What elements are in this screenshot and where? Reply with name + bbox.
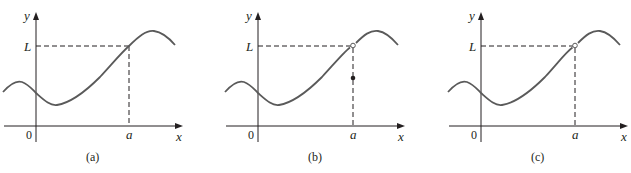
graph-b bbox=[222, 0, 432, 173]
L-label: L bbox=[469, 40, 476, 53]
origin-label: 0 bbox=[26, 129, 32, 141]
y-axis-label: y bbox=[469, 9, 475, 22]
origin-label: 0 bbox=[471, 129, 477, 141]
open-circle-hole-icon bbox=[573, 43, 578, 48]
limit-figure: y L 0 a x (a) y L 0 a x (b) bbox=[0, 0, 631, 173]
a-label: a bbox=[350, 128, 357, 141]
origin-label: 0 bbox=[248, 129, 254, 141]
a-label: a bbox=[126, 128, 133, 141]
a-label: a bbox=[572, 128, 579, 141]
y-axis-arrow-icon bbox=[478, 12, 484, 20]
panel-caption: (a) bbox=[86, 151, 99, 163]
panel-b: y L 0 a x (b) bbox=[222, 0, 432, 173]
x-axis-label: x bbox=[621, 130, 627, 143]
panel-caption: (c) bbox=[531, 151, 544, 163]
y-axis-arrow-icon bbox=[33, 12, 39, 20]
y-axis-arrow-icon bbox=[255, 12, 261, 20]
panel-a: y L 0 a x (a) bbox=[0, 0, 210, 173]
x-axis-label: x bbox=[176, 130, 182, 143]
open-circle-hole-icon bbox=[351, 43, 356, 48]
graph-c bbox=[445, 0, 631, 173]
L-label: L bbox=[246, 40, 253, 53]
x-axis-label: x bbox=[398, 130, 404, 143]
L-label: L bbox=[24, 40, 31, 53]
y-axis-label: y bbox=[24, 9, 30, 22]
panel-caption: (b) bbox=[308, 151, 322, 163]
panel-c: y L 0 a x (c) bbox=[445, 0, 631, 173]
y-axis-label: y bbox=[246, 9, 252, 22]
graph-a bbox=[0, 0, 210, 173]
filled-dot-icon bbox=[351, 76, 356, 81]
